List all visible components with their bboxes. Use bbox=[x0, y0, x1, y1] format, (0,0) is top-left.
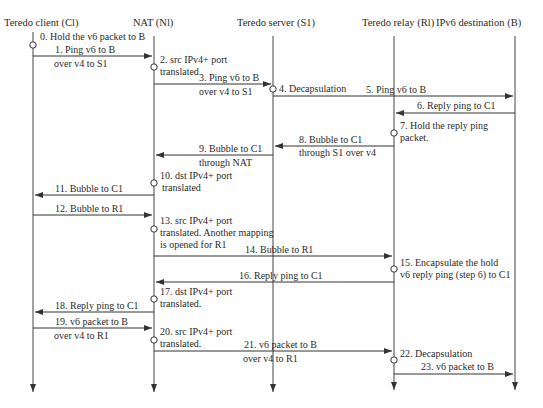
step-5-label: 5. Ping v6 to B bbox=[366, 84, 426, 96]
step-2-label: 2. src IPv4+ port bbox=[160, 54, 227, 66]
step-13-label: 13. src IPv4+ port bbox=[160, 215, 232, 227]
event-marker-22 bbox=[391, 357, 397, 363]
event-marker-4 bbox=[270, 86, 276, 92]
event-marker-20 bbox=[151, 337, 157, 343]
step-9-label: 9. Bubble to C1 bbox=[199, 143, 262, 155]
step-19-label-line2: over v4 to R1 bbox=[54, 330, 109, 342]
step-20-label: 20. src IPv4+ port bbox=[160, 326, 232, 338]
step-19-label: 19. v6 packet to B bbox=[55, 316, 128, 328]
event-marker-10 bbox=[151, 180, 157, 186]
event-marker-17 bbox=[151, 296, 157, 302]
step-10-label: 10. dst IPv4+ port bbox=[160, 170, 232, 182]
step-10-label-line2: translated bbox=[162, 182, 201, 194]
step-13-label-line3: is opened for R1 bbox=[160, 239, 226, 251]
step-6-label: 6. Reply ping to C1 bbox=[417, 100, 496, 112]
step-3-label-line2: over v4 to S1 bbox=[199, 86, 253, 98]
step-15-label: 15. Encapsulate the hold bbox=[400, 257, 498, 269]
step-13-label-line2: translated. Another mapping bbox=[160, 227, 274, 239]
event-marker-0 bbox=[30, 42, 36, 48]
step-21-label-line2: over v4 to R1 bbox=[243, 353, 298, 365]
step-8-label-line2: through S1 over v4 bbox=[299, 147, 376, 159]
step-4-label: 4. Decapsulation bbox=[279, 83, 346, 95]
actor-ipv6-destination: IPv6 destination (B) bbox=[436, 17, 521, 28]
step-16-label: 16. Reply ping to C1 bbox=[239, 270, 323, 282]
step-23-label: 23. v6 packet to B bbox=[421, 361, 494, 373]
step-12-label: 12. Bubble to R1 bbox=[55, 203, 123, 215]
step-7-label: 7. Hold the reply ping bbox=[400, 120, 488, 132]
step-0-label: 0. Hold the v6 packet to B bbox=[40, 31, 145, 43]
step-15-label-line2: v6 reply ping (step 6) to C1 bbox=[400, 269, 511, 281]
step-7-label-line2: packet. bbox=[400, 132, 429, 144]
step-9-label-line2: through NAT bbox=[199, 157, 252, 169]
step-3-label: 3. Ping v6 to B bbox=[199, 72, 259, 84]
event-marker-7 bbox=[391, 130, 397, 136]
event-marker-2 bbox=[151, 64, 157, 70]
step-18-label: 18. Reply ping to C1 bbox=[55, 300, 139, 312]
actor-nat: NAT (Nl) bbox=[133, 17, 173, 28]
step-17-label: 17. dst IPv4+ port bbox=[160, 286, 232, 298]
step-8-label: 8. Bubble to C1 bbox=[299, 134, 362, 146]
actor-teredo-server: Teredo server (S1) bbox=[237, 17, 315, 28]
event-marker-15 bbox=[391, 266, 397, 272]
step-11-label: 11. Bubble to C1 bbox=[55, 183, 123, 195]
event-marker-13 bbox=[151, 226, 157, 232]
step-2-label-line2: translated bbox=[160, 66, 199, 78]
step-22-label: 22. Decapsulation bbox=[400, 348, 472, 360]
step-14-label: 14. Bubble to R1 bbox=[245, 244, 313, 256]
step-20-label-line2: translated. bbox=[160, 338, 201, 350]
sequence-diagram: Teredo client (Cl) NAT (Nl) Teredo serve… bbox=[0, 0, 543, 408]
step-1-label: 1. Ping v6 to B bbox=[55, 44, 115, 56]
actor-teredo-client: Teredo client (Cl) bbox=[4, 17, 78, 28]
step-1-label-line2: over v4 to S1 bbox=[54, 58, 108, 70]
step-17-label-line2: translated. bbox=[160, 298, 201, 310]
step-21-label: 21. v6 packet to B bbox=[244, 339, 317, 351]
actor-teredo-relay: Teredo relay (Rl) bbox=[362, 17, 434, 28]
